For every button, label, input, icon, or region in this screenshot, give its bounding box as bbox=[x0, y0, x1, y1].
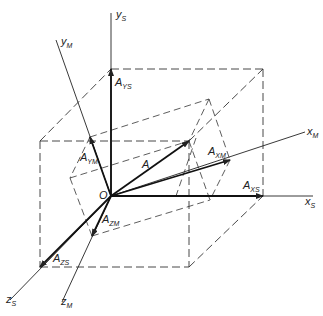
azs-label: AZS bbox=[52, 252, 70, 266]
component-vectors bbox=[40, 69, 263, 267]
vector-diagram: yS yM xM xS zS zM AYS AYM A AXM AXS O AZ… bbox=[0, 0, 323, 316]
ym-axis-label: yM bbox=[60, 35, 73, 49]
xm-axis-label: xM bbox=[306, 125, 319, 139]
azm-label: AZM bbox=[101, 213, 120, 227]
ays-label: AYS bbox=[114, 76, 132, 90]
ys-axis-label: yS bbox=[115, 8, 127, 22]
axm-label: AXM bbox=[207, 145, 226, 159]
xs-axis-label: xS bbox=[304, 195, 316, 209]
a-vector-label: A bbox=[141, 158, 149, 170]
origin-label: O bbox=[99, 189, 108, 201]
zm-axis-label: zM bbox=[60, 295, 73, 309]
axs-label: AXS bbox=[242, 179, 260, 193]
